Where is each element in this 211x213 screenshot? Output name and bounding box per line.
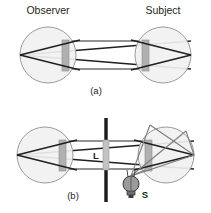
aperture-lens xyxy=(103,140,109,170)
panel-a-caption: (a) xyxy=(90,85,102,96)
lens-label-L: L xyxy=(93,150,99,161)
panel-a: Observer Subject (a) xyxy=(20,4,191,96)
observer-label: Observer xyxy=(26,4,70,16)
subject-label: Subject xyxy=(145,4,180,16)
panel-b-caption: (b) xyxy=(67,190,79,201)
panel-b: L S (b) xyxy=(17,118,194,202)
optics-figure: Observer Subject (a) xyxy=(0,0,211,213)
figure-canvas: Observer Subject (a) xyxy=(0,0,211,213)
source-label-S: S xyxy=(142,189,148,200)
